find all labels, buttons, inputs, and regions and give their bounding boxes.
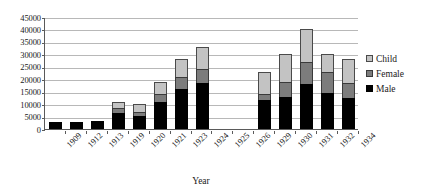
bar-group — [112, 102, 125, 129]
bar-group — [258, 72, 271, 129]
bar-segment-child — [342, 59, 355, 83]
bar-segment-male — [175, 89, 188, 129]
x-tick-mark — [191, 131, 192, 134]
x-tick-mark — [274, 131, 275, 134]
x-tick-mark — [149, 131, 150, 134]
x-tick-mark — [170, 131, 171, 134]
bar-group — [70, 122, 83, 129]
bar-segment-male — [321, 93, 334, 129]
bar-segment-male — [49, 122, 62, 129]
x-tick-mark — [211, 131, 212, 134]
x-axis-tick-label: 1929 — [275, 131, 293, 149]
legend-swatch-child-icon — [366, 55, 373, 62]
legend-swatch-female-icon — [366, 70, 373, 77]
x-axis-tick-label: 1926 — [254, 131, 272, 149]
y-axis-labels: 0500010000150002000025000300003500040000… — [0, 0, 41, 195]
y-axis-tick-label: 0 — [0, 126, 41, 135]
chart-legend: ChildFemaleMale — [366, 52, 425, 97]
x-axis-tick-label: 1920 — [149, 131, 167, 149]
bar-segment-female — [321, 72, 334, 93]
x-tick-mark — [337, 131, 338, 134]
bar-group — [49, 122, 62, 129]
bar-segment-child — [300, 29, 313, 61]
bar-segment-male — [258, 100, 271, 129]
y-axis-tick-label: 25000 — [0, 63, 41, 72]
bar-segment-child — [175, 59, 188, 76]
y-axis-tick-label: 10000 — [0, 101, 41, 110]
bar-group — [342, 59, 355, 129]
x-axis-tick-label: 1923 — [191, 131, 209, 149]
x-axis-tick-label: 1925 — [233, 131, 251, 149]
y-axis-tick-label: 40000 — [0, 26, 41, 35]
bar-segment-child — [112, 102, 125, 109]
x-tick-mark — [295, 131, 296, 134]
bar-group — [321, 54, 334, 129]
legend-label: Male — [376, 84, 396, 94]
x-tick-mark — [358, 131, 359, 134]
bar-segment-child — [279, 54, 292, 81]
x-axis-tick-label: 1932 — [338, 131, 356, 149]
x-axis-tick-label: 1931 — [317, 131, 335, 149]
x-tick-mark — [232, 131, 233, 134]
bar-segment-male — [133, 116, 146, 129]
bar-segment-female — [196, 69, 209, 83]
bar-group — [300, 29, 313, 129]
x-tick-mark — [253, 131, 254, 134]
bar-segment-male — [112, 113, 125, 129]
bars-layer — [45, 18, 358, 129]
x-axis-tick-label: 1930 — [296, 131, 314, 149]
bar-segment-male — [154, 102, 167, 129]
legend-item-female[interactable]: Female — [366, 67, 425, 80]
x-tick-mark — [107, 131, 108, 134]
bar-segment-child — [321, 54, 334, 71]
x-tick-mark — [316, 131, 317, 134]
x-axis-title: Year — [44, 176, 358, 186]
bar-segment-child — [258, 72, 271, 94]
bar-group — [175, 59, 188, 129]
bar-group — [133, 104, 146, 129]
y-axis-tick-label: 20000 — [0, 76, 41, 85]
legend-label: Child — [376, 54, 397, 64]
legend-item-male[interactable]: Male — [366, 82, 425, 95]
bar-segment-male — [196, 83, 209, 129]
bar-segment-male — [91, 121, 104, 129]
x-axis-labels: 1909191219131919192019211923192419251926… — [44, 131, 358, 176]
x-tick-mark — [86, 131, 87, 134]
legend-label: Female — [376, 69, 404, 79]
x-axis-tick-label: 1919 — [128, 131, 146, 149]
bar-segment-male — [300, 84, 313, 129]
x-axis-tick-label: 1924 — [212, 131, 230, 149]
y-axis-tick-label: 45000 — [0, 14, 41, 23]
x-tick-mark — [65, 131, 66, 134]
y-axis-tick-label: 15000 — [0, 88, 41, 97]
x-axis-tick-label: 1934 — [359, 131, 377, 149]
bar-segment-male — [342, 98, 355, 129]
x-axis-tick-label: 1913 — [107, 131, 125, 149]
y-axis-tick-label: 35000 — [0, 38, 41, 47]
bar-group — [91, 121, 104, 129]
bar-segment-female — [300, 62, 313, 84]
bar-segment-female — [342, 83, 355, 98]
y-axis-tick-label: 30000 — [0, 51, 41, 60]
legend-swatch-male-icon — [366, 85, 373, 92]
bar-segment-child — [154, 82, 167, 94]
x-axis-tick-label: 1921 — [170, 131, 188, 149]
bar-group — [279, 54, 292, 129]
bar-segment-female — [154, 94, 167, 101]
plot-area — [44, 18, 358, 130]
x-axis-tick-label: 1912 — [86, 131, 104, 149]
bar-segment-female — [175, 77, 188, 89]
legend-item-child[interactable]: Child — [366, 52, 425, 65]
bar-segment-child — [196, 47, 209, 69]
bar-segment-child — [133, 104, 146, 112]
bar-group — [154, 82, 167, 129]
bar-segment-male — [279, 97, 292, 129]
bar-group — [196, 47, 209, 129]
bar-segment-female — [279, 82, 292, 97]
x-tick-mark — [128, 131, 129, 134]
bar-segment-male — [70, 122, 83, 129]
x-axis-tick-label: 1909 — [65, 131, 83, 149]
stacked-bar-chart: 0500010000150002000025000300003500040000… — [0, 0, 425, 195]
y-axis-tick-label: 5000 — [0, 113, 41, 122]
